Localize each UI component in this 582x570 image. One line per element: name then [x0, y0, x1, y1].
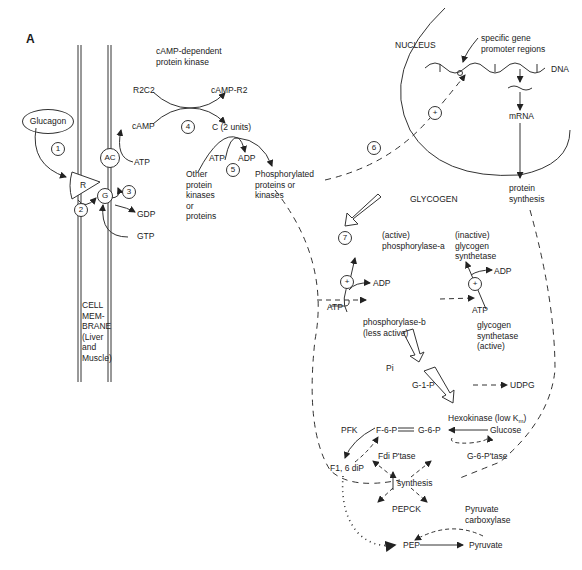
glucagon-ellipse: Glucagon	[22, 109, 74, 134]
nucleus-label: NUCLEUS	[395, 40, 436, 51]
pathway-diagram	[0, 0, 582, 570]
adp-label: ADP	[238, 153, 255, 164]
stimulation-sign-nucleus: +	[428, 106, 442, 120]
pepck-label: PEPCK	[392, 504, 421, 515]
adenylate-cyclase-circle: AC	[100, 148, 120, 168]
g1p-label: G-1-P	[412, 380, 435, 391]
dna-label: DNA	[551, 64, 569, 75]
adp-label-3: ADP	[494, 266, 511, 277]
atp-label-2: ATP	[209, 153, 225, 164]
pyruvate-label: Pyruvate	[469, 540, 503, 551]
receptor-label: R	[80, 180, 86, 191]
pyruvate-carboxylase-label: Pyruvate carboxylase	[465, 504, 510, 525]
pep-label: PEP	[403, 540, 420, 551]
protein-synthesis-label: protein synthesis	[509, 183, 544, 204]
synthesis-label: synthesis	[397, 478, 432, 489]
stimulation-sign-synthetase: +	[468, 277, 482, 291]
step-6-badge: 6	[367, 141, 381, 155]
g-protein-circle: G	[97, 188, 113, 204]
step-3-badge: 3	[122, 185, 136, 199]
pka-title: cAMP-dependent protein kinase	[156, 46, 222, 67]
step-5-badge: 5	[226, 163, 240, 177]
mrna-label: mRNA	[509, 111, 534, 122]
f6p-label: F-6-P	[376, 425, 397, 436]
products-label: Phosphorylated proteins or kinases	[255, 169, 314, 201]
glycogen-label: GLYCOGEN	[410, 194, 458, 205]
atp-label-3: ATP	[327, 302, 343, 313]
membrane-label: CELL MEM- BRANE (Liver and Muscle)	[82, 300, 112, 363]
substrates-label: Other protein kinases or proteins	[186, 169, 216, 222]
r2c2-label: R2C2	[133, 85, 155, 96]
glucose-label: Glucose	[490, 425, 521, 436]
phosphorylase-a-label: (active) phosphorylase-a	[382, 230, 445, 251]
g6p-label: G-6-P	[418, 425, 441, 436]
synthetase-inactive-label: (inactive) glycogen synthetase	[455, 230, 496, 262]
promoter-label: specific gene promoter regions	[481, 33, 545, 54]
step-2-badge: 2	[74, 203, 88, 217]
camp-label: cAMP	[132, 121, 155, 132]
gtp-label: GTP	[137, 231, 154, 242]
atp-label-4: ATP	[472, 305, 488, 316]
pi-label: Pi	[386, 363, 394, 374]
phosphorylase-b-label: phosphorylase-b (less active)	[363, 317, 426, 338]
f16dip-label: F1, 6 diP	[330, 463, 364, 474]
g6-ptase-label: G-6-P'tase	[467, 451, 507, 462]
gdp-label: GDP	[137, 209, 155, 220]
catalytic-label: C (2 units)	[212, 122, 251, 133]
adp-label-2: ADP	[373, 278, 390, 289]
step-7-badge: 7	[338, 231, 352, 245]
step-1-badge: 1	[51, 142, 65, 156]
udpg-label: UDPG	[510, 380, 535, 391]
step-4-badge: 4	[181, 120, 195, 134]
panel-label: A	[26, 32, 35, 46]
pfk-label: PFK	[341, 425, 358, 436]
fdi-ptase-label: Fdi P'tase	[378, 451, 416, 462]
stimulation-sign-phosphorylase: +	[340, 275, 354, 289]
atp-label: ATP	[134, 157, 150, 168]
camp-r2-label: cAMP-R2	[211, 85, 247, 96]
synthetase-active-label: glycogen synthetase (active)	[477, 320, 518, 352]
